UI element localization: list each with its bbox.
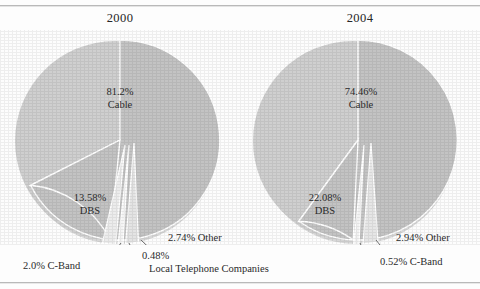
slice-pct-cable-2000: 81.2% xyxy=(78,86,162,99)
figure-canvas: 2000 xyxy=(0,0,480,289)
callout-other-2000: 2.74% Other xyxy=(168,232,222,245)
pie-panel-2000: 2000 xyxy=(0,8,240,282)
slice-name-cable-2004: Cable xyxy=(316,99,406,112)
slice-label-cable-2004: 74.46% Cable xyxy=(316,86,406,111)
callout-text-other-2004: 2.94% Other xyxy=(396,232,450,243)
slice-name-cable-2000: Cable xyxy=(78,99,162,112)
pie-panel-2004: 2004 xyxy=(240,8,480,282)
callout-text-c-band-2000: 2.0% C-Band xyxy=(23,260,80,271)
callout-other-2004: 2.94% Other xyxy=(396,232,450,245)
slice-pct-dbs-2000: 13.58% xyxy=(48,192,132,205)
chart-title-2004: 2004 xyxy=(240,11,480,26)
top-divider-rule xyxy=(0,5,480,6)
callout-c-band-2004: 0.52% C-Band xyxy=(380,256,442,269)
callout-c-band-2000: 2.0% C-Band xyxy=(23,260,80,273)
chart-title-2000: 2000 xyxy=(0,11,240,26)
callout-text-c-band-2004: 0.52% C-Band xyxy=(380,256,442,267)
slice-pct-cable-2004: 74.46% xyxy=(316,86,406,99)
callout-text-other-2000: 2.74% Other xyxy=(168,232,222,243)
bottom-divider-rule xyxy=(0,282,480,283)
slice-pct-dbs-2004: 22.08% xyxy=(280,192,370,205)
slice-name-dbs-2004: DBS xyxy=(280,205,370,218)
slice-label-dbs-2000: 13.58% DBS xyxy=(48,192,132,217)
slice-name-dbs-2000: DBS xyxy=(48,205,132,218)
leader-line-other-2000 xyxy=(141,240,162,245)
slice-label-cable-2000: 81.2% Cable xyxy=(78,86,162,111)
callout-text-local-telephone-2000: 0.48% xyxy=(142,250,169,261)
slice-label-dbs-2004: 22.08% DBS xyxy=(280,192,370,217)
